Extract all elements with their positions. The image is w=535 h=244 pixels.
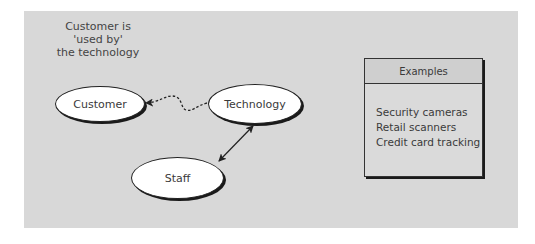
example-item: Security cameras	[376, 105, 480, 120]
uses-arrow-dashed	[146, 96, 207, 110]
example-item: Retail scanners	[376, 120, 480, 135]
node-customer: Customer	[55, 86, 145, 122]
example-item: Credit card tracking	[376, 135, 480, 150]
node-label: Staff	[165, 172, 191, 185]
examples-box: Examples Security cameras Retail scanner…	[364, 58, 483, 177]
node-technology: Technology	[208, 84, 302, 124]
examples-list: Security cameras Retail scanners Credit …	[376, 105, 480, 150]
node-label: Technology	[224, 98, 286, 111]
staff-technology-arrow	[219, 126, 253, 161]
node-staff: Staff	[131, 157, 224, 199]
examples-title: Examples	[365, 59, 482, 84]
node-label: Customer	[73, 98, 126, 111]
